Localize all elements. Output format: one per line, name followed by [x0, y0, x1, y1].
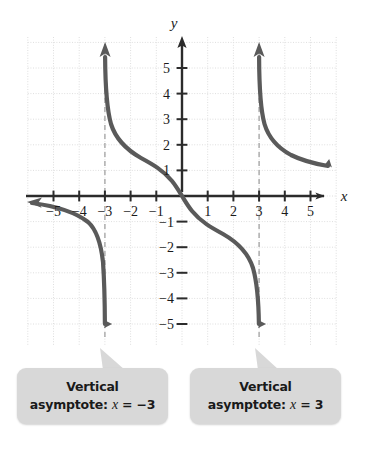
- x-tick-labels: −5 −4 −3 −2 −1 1 2 3 4 5: [46, 204, 314, 219]
- figure-container: y x −5 −4 −3 −2 −1 1 2 3 4 5 5 4 3 2 1 −…: [0, 0, 366, 451]
- x-tick--4: −4: [72, 204, 87, 219]
- y-tick--2: −2: [159, 240, 174, 255]
- y-tick-5: 5: [163, 61, 170, 76]
- y-tick--1: −1: [159, 215, 174, 230]
- x-tick--3: −3: [97, 204, 112, 219]
- y-tick--3: −3: [159, 266, 174, 281]
- y-tick-1: 1: [163, 163, 170, 178]
- x-tick-4: 4: [281, 204, 288, 219]
- y-tick--4: −4: [159, 291, 174, 306]
- y-axis-label: y: [169, 15, 178, 31]
- callout-pointer-left: [100, 348, 125, 370]
- x-tick--5: −5: [46, 204, 61, 219]
- y-tick-3: 3: [163, 112, 170, 127]
- x-tick--2: −2: [123, 204, 138, 219]
- callout-right-line2: asymptote: x = 3: [208, 396, 323, 414]
- callout-right-prefix: asymptote:: [208, 397, 286, 412]
- callout-left-vertical-asymptote: Vertical asymptote: x = −3: [17, 368, 168, 424]
- x-tick-5: 5: [307, 204, 314, 219]
- function-curve: [32, 57, 328, 324]
- callout-left-equals: =: [122, 397, 132, 412]
- callout-left-value: −3: [137, 397, 156, 412]
- curve-left-branch: [32, 203, 105, 324]
- callout-left-variable: x: [112, 397, 118, 412]
- callout-right-variable: x: [290, 397, 296, 412]
- x-tick-1: 1: [204, 204, 211, 219]
- curve-right-branch: [259, 57, 328, 166]
- callout-right-line1: Vertical: [239, 379, 291, 395]
- callout-right-value: 3: [315, 397, 324, 412]
- x-tick-3: 3: [256, 204, 263, 219]
- y-tick-4: 4: [163, 87, 170, 102]
- x-tick-2: 2: [230, 204, 237, 219]
- y-tick--5: −5: [159, 317, 174, 332]
- y-tick-2: 2: [163, 138, 170, 153]
- callout-right-vertical-asymptote: Vertical asymptote: x = 3: [190, 368, 341, 424]
- x-axis-label: x: [340, 188, 348, 204]
- callout-right-equals: =: [300, 397, 310, 412]
- callout-pointer-right: [255, 348, 279, 370]
- axes: [26, 45, 324, 196]
- callout-pointers: [100, 348, 279, 370]
- callout-left-line2: asymptote: x = −3: [30, 396, 156, 414]
- callout-left-line1: Vertical: [66, 379, 118, 395]
- callout-left-prefix: asymptote:: [30, 397, 108, 412]
